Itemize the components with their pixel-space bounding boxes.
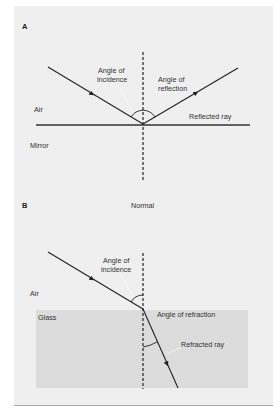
- reflection-diagram: A Angle of incidence Angle of reflection…: [22, 22, 250, 180]
- refracted-ray-label: Refracted ray: [181, 340, 225, 349]
- angle-arc-incidence-b: [131, 295, 143, 302]
- medium-air-a: Air: [34, 105, 43, 114]
- angle-incidence-b-line2: incidence: [101, 265, 131, 274]
- medium-glass: Glass: [38, 313, 57, 322]
- incident-ray-a: [48, 67, 143, 124]
- angle-reflection-line1: Angle of: [158, 75, 184, 84]
- angle-refraction-label: Angle of refraction: [157, 310, 215, 319]
- normal-label: Normal: [131, 201, 155, 210]
- glass-block: [36, 310, 248, 388]
- panel-a-label: A: [22, 22, 28, 31]
- optics-diagram: A Angle of incidence Angle of reflection…: [0, 0, 278, 415]
- angle-incidence-b-line1: Angle of: [103, 256, 129, 265]
- angle-incidence-line1: Angle of: [98, 66, 124, 75]
- medium-air-b: Air: [30, 289, 39, 298]
- refraction-diagram: B Normal Angle of incidence Air Glass An…: [22, 201, 248, 389]
- angle-reflection-line2: reflection: [158, 84, 187, 93]
- panel-b-label: B: [22, 201, 28, 210]
- medium-mirror: Mirror: [30, 141, 49, 150]
- angle-incidence-line2: incidence: [97, 75, 127, 84]
- reflected-ray-label: Reflected ray: [189, 112, 232, 121]
